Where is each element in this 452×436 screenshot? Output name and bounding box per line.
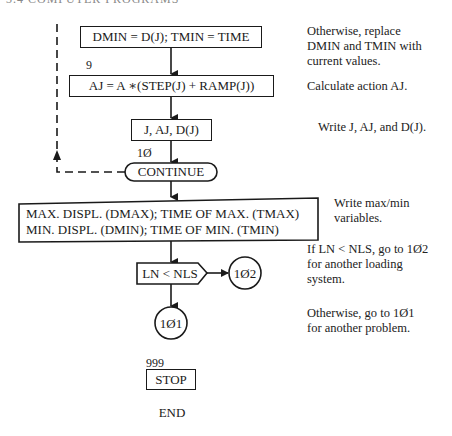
output-line-1: MAX. DISPL. (DMAX); TIME OF MAX. (TMAX): [26, 206, 316, 222]
connector-101-text: 1Ø1: [155, 316, 187, 332]
write-values-text: J, AJ, D(J): [144, 122, 199, 138]
stop-text: STOP: [155, 372, 187, 388]
stop-box: STOP: [146, 369, 196, 390]
note-if-ln-less-nls: If LN < NLS, go to 1Ø2 for another loadi…: [307, 242, 428, 287]
statement-label-10: 1Ø: [137, 146, 152, 161]
write-values-box: J, AJ, D(J): [131, 119, 212, 141]
note-write-values: Write J, AJ, and D(J).: [318, 120, 426, 135]
note-line: for another problem.: [307, 321, 415, 336]
end-text: END: [156, 405, 188, 421]
calculate-action-text: AJ = A ∗(STEP(J) + RAMP(J)): [89, 78, 254, 94]
note-otherwise-101: Otherwise, go to 1Ø1 for another problem…: [307, 306, 415, 336]
note-replace-min: Otherwise, replace DMIN and TMIN with cu…: [307, 24, 422, 69]
assign-min-box: DMIN = D(J); TMIN = TIME: [80, 26, 262, 48]
note-line: Write max/min: [334, 196, 410, 211]
note-line: system.: [307, 272, 428, 287]
output-box-text: MAX. DISPL. (DMAX); TIME OF MAX. (TMAX) …: [26, 206, 316, 238]
note-line: If LN < NLS, go to 1Ø2: [307, 242, 428, 257]
note-line: DMIN and TMIN with: [307, 39, 422, 54]
note-calculate-action: Calculate action AJ.: [307, 79, 407, 94]
note-line: Calculate action AJ.: [307, 79, 407, 94]
note-line: for another loading: [307, 257, 428, 272]
note-line: variables.: [334, 211, 410, 226]
assign-min-text: DMIN = D(J); TMIN = TIME: [93, 29, 250, 45]
note-line: Otherwise, replace: [307, 24, 422, 39]
calculate-action-box: AJ = A ∗(STEP(J) + RAMP(J)): [69, 75, 274, 97]
note-line: Write J, AJ, and D(J).: [318, 120, 426, 135]
continue-text: CONTINUE: [125, 164, 217, 180]
note-write-maxmin: Write max/min variables.: [334, 196, 410, 226]
decision-text: LN < NLS: [137, 266, 203, 282]
connector-102-text: 1Ø2: [229, 266, 261, 282]
note-line: Otherwise, go to 1Ø1: [307, 306, 415, 321]
output-line-2: MIN. DISPL. (DMIN); TIME OF MIN. (TMIN): [26, 222, 316, 238]
note-line: current values.: [307, 54, 422, 69]
statement-label-9: 9: [86, 58, 92, 73]
